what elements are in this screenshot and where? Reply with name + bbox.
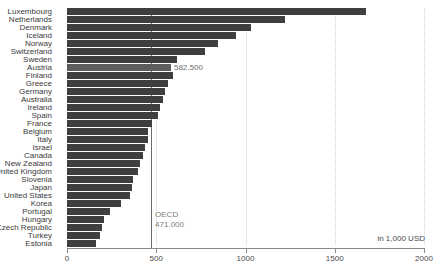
plot-area: LuxembourgNetherlandsDenmarkIcelandNorwa… bbox=[67, 8, 424, 248]
bar-finland bbox=[67, 72, 173, 79]
bar-slovenia bbox=[67, 176, 133, 183]
bar-sweden bbox=[67, 56, 177, 63]
bar-portugal bbox=[67, 208, 110, 215]
bar-denmark bbox=[67, 24, 251, 31]
bar-japan bbox=[67, 184, 132, 191]
x-tick-2000 bbox=[424, 249, 425, 253]
bar-israel bbox=[67, 144, 145, 151]
bar-ireland bbox=[67, 104, 160, 111]
bar-luxembourg bbox=[67, 8, 366, 15]
bar-united-states bbox=[67, 192, 130, 199]
bar-belgium bbox=[67, 128, 148, 135]
bar-canada bbox=[67, 152, 143, 159]
bar-united-kingdom bbox=[67, 168, 138, 175]
horizontal-bar-chart: LuxembourgNetherlandsDenmarkIcelandNorwa… bbox=[0, 0, 435, 271]
x-tick-label-500: 500 bbox=[150, 254, 163, 263]
oecd-annotation-label: OECD bbox=[155, 210, 184, 220]
bar-turkey bbox=[67, 232, 100, 239]
category-label-estonia: Estonia bbox=[25, 239, 52, 248]
austria-value-label: 582.500 bbox=[174, 63, 203, 72]
bar-korea bbox=[67, 200, 121, 207]
oecd-annotation-value: 471.000 bbox=[155, 220, 184, 230]
bar-germany bbox=[67, 88, 165, 95]
bar-czech-republic bbox=[67, 224, 102, 231]
bar-austria bbox=[67, 64, 171, 71]
x-tick-label-1500: 1500 bbox=[326, 254, 344, 263]
bar-spain bbox=[67, 112, 158, 119]
x-tick-1500 bbox=[335, 249, 336, 253]
bar-italy bbox=[67, 136, 148, 143]
bar-switzerland bbox=[67, 48, 205, 55]
bar-iceland bbox=[67, 32, 236, 39]
x-axis-unit-label: in 1,000 USD bbox=[377, 234, 425, 243]
gridline-2000 bbox=[424, 8, 425, 245]
x-tick-label-0: 0 bbox=[65, 254, 69, 263]
x-tick-1000 bbox=[246, 249, 247, 253]
bar-hungary bbox=[67, 216, 104, 223]
x-tick-label-2000: 2000 bbox=[415, 254, 433, 263]
x-tick-500 bbox=[156, 249, 157, 253]
bar-new-zealand bbox=[67, 160, 140, 167]
bar-netherlands bbox=[67, 16, 285, 23]
bar-norway bbox=[67, 40, 218, 47]
x-tick-label-1000: 1000 bbox=[237, 254, 255, 263]
bar-france bbox=[67, 120, 152, 127]
bar-estonia bbox=[67, 240, 96, 247]
bar-greece bbox=[67, 80, 168, 87]
x-tick-0 bbox=[67, 249, 68, 253]
oecd-annotation: OECD471.000 bbox=[155, 210, 184, 230]
bar-australia bbox=[67, 96, 163, 103]
